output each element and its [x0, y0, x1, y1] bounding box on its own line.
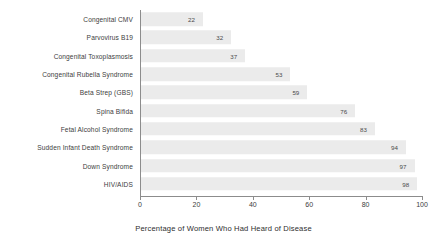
category-label: Down Syndrome [83, 162, 133, 169]
plot-area: Congenital CMV22Parvovirus B1932Congenit… [140, 10, 422, 193]
category-label: Congenital Rubella Syndrome [42, 71, 133, 78]
category-label: Parvovirus B19 [87, 34, 133, 41]
bar-row: Sudden Infant Death Syndrome94 [140, 138, 422, 156]
bar-value-label: 37 [230, 52, 237, 59]
x-tick [140, 196, 141, 200]
x-tick-label: 40 [249, 201, 257, 208]
bar [141, 86, 307, 100]
bar [141, 140, 406, 154]
x-tick [422, 196, 423, 200]
category-label: Fetal Alcohol Syndrome [61, 125, 133, 132]
bar-value-label: 22 [188, 16, 195, 23]
bar-row: Beta Strep (GBS)59 [140, 83, 422, 101]
bar-value-label: 83 [360, 125, 367, 132]
bar [141, 122, 375, 136]
category-label: Beta Strep (GBS) [80, 89, 133, 96]
bar-row: Down Syndrome97 [140, 156, 422, 174]
x-tick-label: 60 [305, 201, 313, 208]
category-label: Congenital Toxoplasmosis [54, 52, 133, 59]
bar-value-label: 53 [275, 71, 282, 78]
x-tick [253, 196, 254, 200]
bar-row: Fetal Alcohol Syndrome83 [140, 120, 422, 138]
bar [141, 67, 290, 81]
bar-row: Spina Bifida76 [140, 102, 422, 120]
bar-chart: Congenital CMV22Parvovirus B1932Congenit… [0, 0, 447, 248]
bar-value-label: 59 [292, 89, 299, 96]
category-label: Congenital CMV [83, 16, 133, 23]
bar-value-label: 32 [216, 34, 223, 41]
bar-row: HIV/AIDS98 [140, 175, 422, 193]
bar-row: Congenital Toxoplasmosis37 [140, 47, 422, 65]
x-tick [309, 196, 310, 200]
bar-row: Congenital Rubella Syndrome53 [140, 65, 422, 83]
bar [141, 159, 415, 173]
x-tick [366, 196, 367, 200]
x-tick-label: 80 [362, 201, 370, 208]
bar-value-label: 98 [402, 180, 409, 187]
category-label: Spina Bifida [96, 107, 133, 114]
x-tick-label: 0 [138, 201, 142, 208]
category-label: HIV/AIDS [104, 180, 133, 187]
bar [141, 177, 417, 191]
bar-value-label: 76 [340, 107, 347, 114]
bar-row: Congenital CMV22 [140, 10, 422, 28]
x-axis-line [140, 196, 423, 197]
bar [141, 104, 355, 118]
x-tick-label: 100 [416, 201, 428, 208]
x-tick-label: 20 [192, 201, 200, 208]
x-axis-title: Percentage of Women Who Had Heard of Dis… [0, 224, 447, 233]
bar-value-label: 94 [391, 144, 398, 151]
bar-value-label: 97 [400, 162, 407, 169]
category-label: Sudden Infant Death Syndrome [37, 144, 133, 151]
x-tick [196, 196, 197, 200]
bar-row: Parvovirus B1932 [140, 28, 422, 46]
